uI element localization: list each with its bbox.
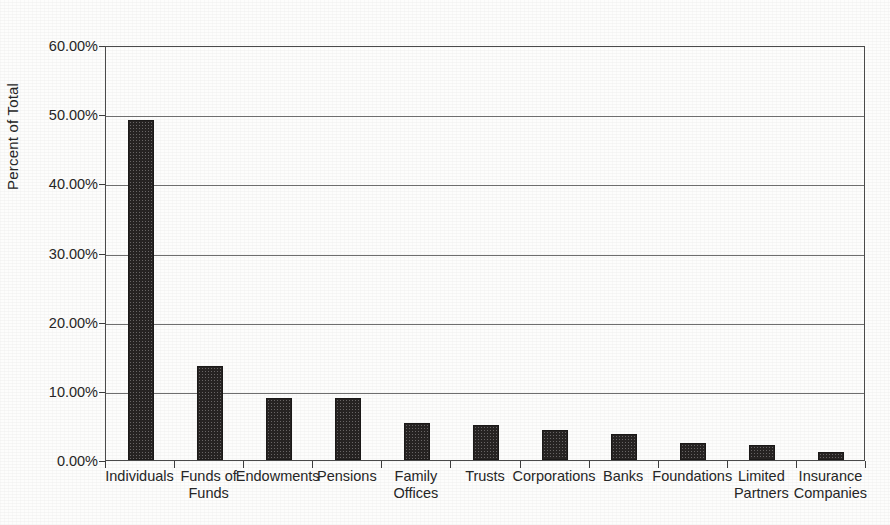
x-axis-tick-mark [450, 461, 451, 468]
x-axis-tick-mark [589, 461, 590, 468]
gridline [106, 255, 864, 256]
y-axis-tick-label: 0.00% [0, 453, 98, 469]
bar [128, 120, 154, 460]
bar [611, 434, 637, 460]
y-axis-tick-label: 60.00% [0, 38, 98, 54]
bar [818, 452, 844, 460]
bar [197, 366, 223, 460]
bar [680, 443, 706, 460]
bar [473, 425, 499, 460]
gridline [106, 185, 864, 186]
y-axis-title: Percent of Total [4, 0, 21, 190]
x-axis-tick-mark [520, 461, 521, 468]
x-axis-tick-mark [658, 461, 659, 468]
x-axis-tick-mark [312, 461, 313, 468]
y-axis-tick-label: 50.00% [0, 107, 98, 123]
x-axis-category-label: Insurance Companies [775, 468, 885, 502]
y-axis-tick-label: 30.00% [0, 246, 98, 262]
x-axis-tick-mark [243, 461, 244, 468]
bar-chart-figure: Percent of Total 0.00%10.00%20.00%30.00%… [0, 0, 890, 525]
bar [404, 423, 430, 460]
x-axis-tick-mark [865, 461, 866, 468]
y-axis-tick-label: 10.00% [0, 384, 98, 400]
x-axis-tick-mark [381, 461, 382, 468]
y-axis-tick-label: 40.00% [0, 176, 98, 192]
bar [542, 430, 568, 460]
x-axis-tick-mark [796, 461, 797, 468]
bar [749, 445, 775, 460]
gridline [106, 116, 864, 117]
y-axis-tick-label: 20.00% [0, 315, 98, 331]
x-axis-tick-mark [105, 461, 106, 468]
plot-area [105, 46, 865, 461]
x-axis-tick-mark [174, 461, 175, 468]
bar [335, 398, 361, 460]
x-axis-tick-mark [727, 461, 728, 468]
bar [266, 398, 292, 460]
gridline [106, 324, 864, 325]
